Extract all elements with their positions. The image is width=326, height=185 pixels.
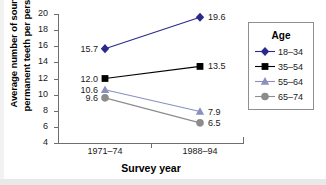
series-0-point-1 [196,13,204,22]
left-edge-band [0,0,4,185]
data-label-0-1: 19.6 [208,12,226,22]
y-axis-title-line-1: Average number of sound [7,0,20,124]
y-tick-label-4: 4 [30,137,48,147]
legend-marker-square-icon [254,60,276,73]
legend-item-18–34[interactable]: 18–34 [249,44,313,59]
series-line-3 [105,98,200,123]
y-tick-label-12: 12 [30,73,48,83]
x-axis-title: Survey year [58,162,244,174]
bottom-edge-band [0,179,326,185]
series-2-point-0 [101,85,109,93]
y-tick-label-16: 16 [30,40,48,50]
y-tick-label-8: 8 [30,105,48,115]
data-label-1-0: 12.0 [80,74,98,84]
legend-marker-circle-icon [254,90,276,103]
data-label-0-0: 15.7 [80,44,98,54]
series-1-point-1 [197,63,204,70]
y-tick-label-6: 6 [30,121,48,131]
legend-title: Age [249,30,313,41]
chart-screenshot: Average number of sound permanent teeth … [0,0,326,185]
data-label-2-1: 7.9 [208,107,221,117]
x-tick-label-1: 1988–94 [182,146,217,156]
series-0-point-0 [101,44,109,53]
y-tick-label-18: 18 [30,24,48,34]
series-1-point-0 [102,75,109,82]
y-tick-label-10: 10 [30,89,48,99]
series-3-point-0 [101,94,109,102]
legend-item-55–64[interactable]: 55–64 [249,74,313,89]
legend-marker-triangle-icon [254,75,276,88]
legend-items: 18–3435–5455–6465–74 [249,44,313,104]
y-tick-label-20: 20 [30,8,48,18]
data-label-3-1: 6.5 [208,118,221,128]
legend-marker-diamond-icon [254,45,276,58]
legend-item-35–54[interactable]: 35–54 [249,59,313,74]
legend-item-65–74[interactable]: 65–74 [249,89,313,104]
y-tick-label-14: 14 [30,56,48,66]
x-tick-1 [151,143,152,148]
series-line-0 [105,17,200,48]
plot-area: 201816141210864 15.719.612.013.510.67.99… [58,14,244,143]
legend-label-1: 35–54 [278,62,303,72]
legend-label-0: 18–34 [278,47,303,57]
legend-label-3: 65–74 [278,92,303,102]
x-tick-label-0: 1971–74 [87,146,122,156]
legend-box: Age 18–3435–5455–6465–74 [248,22,314,110]
series-line-1 [105,66,200,78]
data-label-3-0: 9.6 [85,93,98,103]
legend-label-2: 55–64 [278,77,303,87]
series-3-point-1 [196,119,204,127]
data-label-1-1: 13.5 [208,61,226,71]
series-line-2 [105,90,200,112]
